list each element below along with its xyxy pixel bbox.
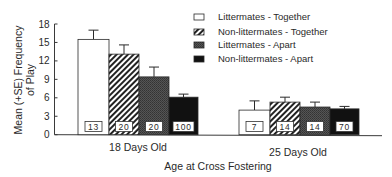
legend-item-white: Littermates - Together: [194, 11, 310, 22]
legend-swatch: [194, 56, 204, 62]
sample-size-label: 20: [148, 122, 159, 132]
category-label-18-days: 18 Days Old: [109, 141, 167, 153]
bar-darkgray-1: 14: [300, 102, 330, 135]
legend-label: Non-littermates - Together: [218, 26, 328, 37]
bar-hatch-0: 20: [109, 45, 139, 135]
y-tick-label: 0: [44, 129, 50, 140]
legend-label: Littermates - Apart: [218, 39, 296, 50]
legend-item-hatch: Non-littermates - Together: [194, 26, 328, 37]
y-tick-label: 12: [38, 55, 50, 66]
x-axis-title: Age at Cross Fostering: [164, 160, 272, 172]
legend-label: Littermates - Together: [218, 11, 310, 22]
y-axis-title-line1: Mean (+SE) Frequency: [12, 25, 24, 135]
sample-size-label: 14: [279, 122, 290, 132]
legend-swatch: [194, 29, 204, 35]
legend-swatch: [194, 42, 204, 48]
y-axis-title-line2: of Play: [24, 63, 36, 96]
y-tick-label: 18: [38, 19, 50, 30]
bar-black-1: 70: [330, 106, 359, 134]
sample-size-label: 14: [309, 122, 320, 132]
sample-size-label: 20: [118, 122, 129, 132]
y-tick-label: 15: [38, 37, 50, 48]
bar-white-0: 13: [78, 30, 109, 135]
sample-size-label: 13: [88, 122, 99, 132]
bar-darkgray-0: 20: [139, 67, 169, 135]
legend-swatch: [194, 14, 204, 20]
bar-black-0: 100: [169, 94, 198, 135]
legend: Littermates - TogetherNon-littermates - …: [194, 11, 328, 64]
y-tick-label: 9: [44, 74, 50, 85]
bar-hatch-1: 14: [270, 97, 300, 135]
bar-chart: Mean (+SE) Frequency of Play 0369121518 …: [0, 0, 392, 177]
sample-size-label: 70: [339, 122, 350, 132]
bar-white-1: 7: [239, 101, 270, 135]
bar-rect: [78, 39, 109, 134]
sample-size-label: 100: [175, 122, 192, 132]
category-label-25-days: 25 Days Old: [269, 146, 327, 158]
y-tick-label: 3: [44, 111, 50, 122]
y-axis-title: Mean (+SE) Frequency of Play: [12, 25, 36, 135]
legend-item-black: Non-littermates - Apart: [194, 53, 313, 64]
sample-size-label: 7: [252, 122, 258, 132]
legend-item-darkgray: Littermates - Apart: [194, 39, 296, 50]
y-tick-label: 6: [44, 92, 50, 103]
legend-label: Non-littermates - Apart: [218, 53, 313, 64]
